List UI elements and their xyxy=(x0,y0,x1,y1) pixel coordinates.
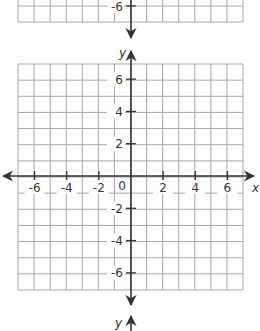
main-y-axis-label: y xyxy=(118,46,127,60)
y-tick-label: 6 xyxy=(115,73,123,87)
top-plane: -6 xyxy=(18,0,243,38)
y-tick-label: -4 xyxy=(111,234,123,248)
main-x-axis-label: x xyxy=(251,181,260,195)
y-tick-label: 2 xyxy=(115,137,123,151)
x-tick-label: 6 xyxy=(224,181,232,195)
bottom-plane: y xyxy=(114,316,131,331)
x-tick-label: 2 xyxy=(159,181,167,195)
bottom-y-axis-label: y xyxy=(114,316,123,330)
y-tick-label: -2 xyxy=(111,202,123,216)
main-plane: -6-4-2246642-2-4-6 y x 0 xyxy=(3,46,260,305)
x-tick-label: -6 xyxy=(29,181,41,195)
x-tick-label: 4 xyxy=(191,181,199,195)
y-tick-label: 4 xyxy=(115,105,123,119)
origin-label: 0 xyxy=(118,179,126,193)
y-tick-label: -6 xyxy=(111,266,123,280)
x-tick-label: -2 xyxy=(93,181,105,195)
coordinate-planes: -6 -6-4-2246642-2-4-6 y x 0 y xyxy=(0,0,260,331)
top-y-label-neg6: -6 xyxy=(111,0,123,14)
x-tick-label: -4 xyxy=(61,181,73,195)
